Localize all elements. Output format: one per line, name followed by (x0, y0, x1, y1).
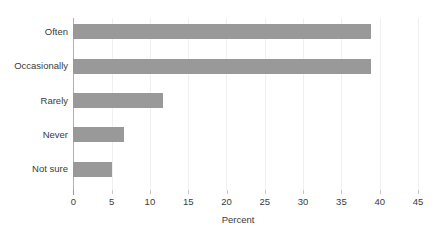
x-tick-label: 40 (374, 196, 385, 207)
bar-chart: OftenOccasionallyRarelyNeverNot sure 051… (0, 0, 438, 240)
y-axis-category-label: Never (43, 129, 68, 140)
plot-area (73, 18, 418, 190)
y-axis-category-label: Rarely (41, 95, 68, 106)
x-tick-label: 30 (298, 196, 309, 207)
x-tick-mark-30 (303, 190, 304, 194)
bar (73, 93, 163, 108)
x-tick-mark-0 (73, 190, 74, 195)
x-axis-title: Percent (0, 214, 438, 225)
gridline-25 (265, 18, 266, 190)
x-tick-label: 20 (221, 196, 232, 207)
y-axis-category-labels: OftenOccasionallyRarelyNeverNot sure (0, 18, 68, 190)
gridline-45 (418, 18, 419, 190)
bar (73, 24, 371, 39)
x-tick-mark-20 (227, 190, 228, 194)
x-tick-mark-40 (380, 190, 381, 194)
x-tick-mark-5 (112, 190, 113, 194)
bar (73, 127, 124, 142)
x-tick-label: 10 (145, 196, 156, 207)
x-tick-mark-10 (150, 190, 151, 194)
x-tick-label: 45 (413, 196, 424, 207)
bar (73, 59, 370, 74)
x-tick-label: 5 (109, 196, 114, 207)
x-tick-label: 25 (260, 196, 271, 207)
y-axis-category-label: Not sure (32, 163, 68, 174)
x-tick-label: 35 (336, 196, 347, 207)
bar (73, 162, 111, 177)
y-axis-category-label: Occasionally (14, 60, 68, 71)
x-tick-mark-45 (418, 190, 419, 194)
x-tick-label: 0 (71, 196, 76, 207)
gridline-15 (188, 18, 189, 190)
x-tick-mark-15 (188, 190, 189, 194)
gridline-40 (380, 18, 381, 190)
gridline-20 (226, 18, 227, 190)
gridline-35 (341, 18, 342, 190)
x-axis-title-text: Percent (222, 214, 255, 225)
x-tick-mark-25 (265, 190, 266, 194)
y-axis-category-label: Often (45, 26, 68, 37)
x-tick-label: 15 (183, 196, 194, 207)
x-tick-mark-35 (341, 190, 342, 194)
gridline-30 (303, 18, 304, 190)
